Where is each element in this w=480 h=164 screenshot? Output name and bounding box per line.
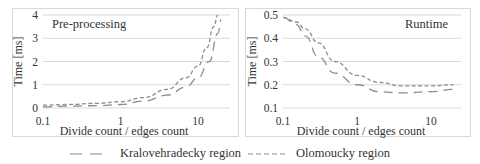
y-tick-label: 0.3 — [264, 56, 279, 68]
chart-title: Runtime — [405, 17, 449, 31]
y-tick-label: 0 — [32, 102, 38, 114]
y-tick-label: 0.5 — [264, 9, 279, 21]
x-tick-label: 0.1 — [36, 115, 51, 127]
short-dash-line-icon — [248, 149, 286, 159]
chart-title: Pre-processing — [52, 17, 127, 31]
y-tick-label: 3 — [32, 32, 38, 44]
x-tick-label: 0.1 — [276, 115, 291, 127]
y-tick-label: 0.1 — [264, 102, 279, 114]
legend-item-kralovehradecky: Kralovehradecky region — [70, 146, 241, 161]
x-axis-label: Divide count / edges count — [297, 124, 426, 138]
x-tick-label: 10 — [425, 115, 437, 127]
y-tick-label: 0.4 — [264, 32, 279, 44]
charts-canvas: 012340.1110Divide count / edges countTim… — [0, 0, 480, 164]
legend-label: Olomoucky region — [296, 146, 390, 161]
legend: Kralovehradecky region Olomoucky region — [0, 146, 480, 164]
series-kralovehradecky — [43, 20, 221, 107]
long-dash-line-icon — [70, 149, 110, 159]
legend-item-olomoucky: Olomoucky region — [248, 146, 390, 161]
y-tick-label: 0.2 — [264, 79, 279, 91]
legend-label: Kralovehradecky region — [120, 146, 241, 161]
y-axis-label: Time [ms] — [245, 37, 259, 87]
y-axis-label: Time [ms] — [11, 37, 25, 87]
y-tick-label: 4 — [32, 9, 38, 21]
y-tick-label: 1 — [32, 79, 38, 91]
x-tick-label: 10 — [192, 115, 204, 127]
x-axis-label: Divide count / edges count — [60, 124, 189, 138]
y-tick-label: 2 — [32, 56, 38, 68]
